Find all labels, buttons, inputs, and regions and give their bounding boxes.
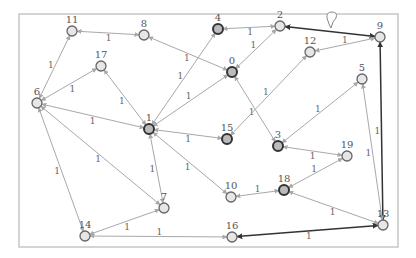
node-4[interactable]: 4 [213, 12, 223, 34]
node-label: 0 [229, 55, 235, 66]
node-circle[interactable] [305, 47, 315, 57]
node-17[interactable]: 17 [95, 49, 108, 71]
node-label: 5 [359, 62, 365, 73]
edge-weight-label: 1 [330, 207, 336, 217]
node-7[interactable]: 7 [159, 191, 169, 213]
node-circle[interactable] [213, 24, 223, 34]
node-label: 9 [377, 20, 383, 31]
node-layer: 012345678910111213141516171819 [32, 9, 389, 242]
edge-weight-label: 1 [311, 164, 317, 174]
node-label: 10 [225, 180, 238, 191]
node-label: 8 [141, 18, 147, 29]
node-circle[interactable] [80, 231, 90, 241]
node-circle[interactable] [375, 32, 385, 42]
node-circle[interactable] [342, 151, 352, 161]
edge-6-14[interactable] [39, 108, 84, 232]
node-label: 1 [146, 112, 152, 123]
node-circle[interactable] [226, 192, 236, 202]
edge-9-13[interactable] [380, 42, 383, 220]
node-label: 17 [95, 49, 108, 60]
node-0[interactable]: 0 [227, 55, 237, 77]
mouse-cursor-icon [327, 12, 337, 28]
node-5[interactable]: 5 [357, 62, 367, 84]
node-label: 11 [66, 14, 79, 25]
node-circle[interactable] [32, 98, 42, 108]
node-10[interactable]: 10 [225, 180, 238, 202]
node-circle[interactable] [144, 124, 154, 134]
node-label: 3 [275, 129, 281, 140]
node-circle[interactable] [275, 21, 285, 31]
node-1[interactable]: 1 [144, 112, 154, 134]
edge-weight-label: 1 [306, 231, 312, 241]
edge-weight-label: 1 [70, 84, 76, 94]
edge-weight-label: 1 [184, 53, 190, 63]
edge-layer: 1111111111111111111111111111 [39, 26, 383, 241]
graph-canvas[interactable]: 1111111111111111111111111111 01234567891… [0, 0, 416, 258]
edge-weight-label: 1 [366, 148, 372, 158]
edge-weight-label: 1 [157, 227, 163, 237]
edge-weight-label: 1 [251, 40, 257, 50]
node-16[interactable]: 16 [226, 220, 239, 242]
edge-weight-label: 1 [310, 151, 316, 161]
edge-11-6[interactable] [39, 35, 70, 98]
edge-weight-label: 1 [186, 91, 192, 101]
edge-weight-label: 1 [315, 104, 321, 114]
node-11[interactable]: 11 [66, 14, 79, 36]
node-circle[interactable] [67, 26, 77, 36]
node-2[interactable]: 2 [275, 9, 285, 31]
node-15[interactable]: 15 [221, 122, 234, 144]
node-label: 16 [226, 220, 239, 231]
edge-weight-label: 1 [185, 162, 191, 172]
edge-weight-label: 1 [119, 96, 125, 106]
node-circle[interactable] [227, 232, 237, 242]
edge-weight-label: 1 [54, 166, 60, 176]
node-circle[interactable] [227, 67, 237, 77]
node-9[interactable]: 9 [375, 20, 385, 42]
node-label: 19 [341, 139, 354, 150]
node-circle[interactable] [96, 61, 106, 71]
node-circle[interactable] [139, 30, 149, 40]
edge-weight-label: 1 [177, 71, 183, 81]
node-6[interactable]: 6 [32, 86, 42, 108]
node-circle[interactable] [357, 74, 367, 84]
node-circle[interactable] [378, 220, 388, 230]
edge-weight-label: 1 [95, 154, 101, 164]
hand-cursor-icon [327, 12, 337, 28]
edge-weight-label: 1 [263, 87, 269, 97]
edge-weight-label: 1 [106, 33, 112, 43]
node-circle[interactable] [279, 185, 289, 195]
edge-weight-label: 1 [255, 184, 261, 194]
edge-4-1[interactable] [152, 33, 215, 125]
edge-weight-label: 1 [150, 164, 156, 174]
node-label: 15 [221, 122, 234, 133]
node-label: 12 [304, 35, 317, 46]
node-label: 7 [161, 191, 167, 202]
node-label: 14 [79, 219, 92, 230]
edge-weight-label: 1 [342, 35, 348, 45]
edge-weight-label: 1 [90, 116, 96, 126]
edge-weight-label: 1 [185, 134, 191, 144]
node-19[interactable]: 19 [341, 139, 354, 161]
node-label: 2 [277, 9, 283, 20]
node-circle[interactable] [273, 141, 283, 151]
node-18[interactable]: 18 [278, 173, 291, 195]
node-label: 4 [215, 12, 221, 23]
edge-17-1[interactable] [104, 70, 146, 125]
node-label: 6 [34, 86, 40, 97]
node-circle[interactable] [159, 203, 169, 213]
edge-weight-label: 1 [247, 27, 253, 37]
node-label: 18 [278, 173, 291, 184]
edge-weight-label: 1 [124, 222, 130, 232]
node-8[interactable]: 8 [139, 18, 149, 40]
edge-2-9[interactable] [285, 27, 375, 37]
edge-weight-label: 1 [375, 126, 381, 136]
node-12[interactable]: 12 [304, 35, 317, 57]
node-circle[interactable] [222, 134, 232, 144]
node-14[interactable]: 14 [79, 219, 92, 241]
edge-weight-label: 1 [48, 60, 54, 70]
node-label: 13 [377, 208, 390, 219]
